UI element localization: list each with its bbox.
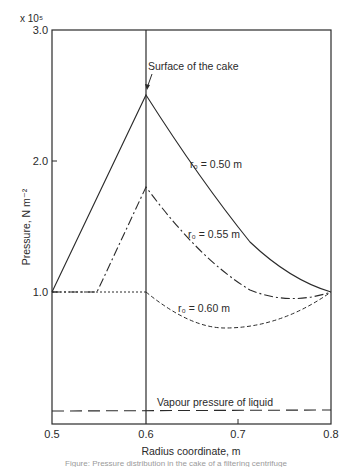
annotation-vapour: Vapour pressure of liquid: [157, 396, 273, 408]
annotation-r055: r₀ = 0.55 m: [188, 228, 240, 240]
plot-frame: [52, 30, 331, 424]
y-axis-ticks: [52, 161, 57, 292]
figure-caption: Figure: Pressure distribution in the cak…: [65, 459, 287, 467]
series-r060: [146, 292, 331, 328]
series-r050: [52, 95, 331, 292]
y-tick-3: 3.0: [33, 24, 48, 36]
y-axis-title: Pressure, N m⁻²: [20, 188, 32, 265]
y-multiplier: x 10⁵: [20, 13, 43, 24]
annotation-r050: r₀ = 0.50 m: [190, 158, 242, 170]
y-tick-2: 2.0: [33, 155, 48, 167]
y-tick-1: 1.0: [33, 286, 48, 298]
annotation-r060: r₀ = 0.60 m: [178, 302, 230, 314]
annotation-surface: Surface of the cake: [148, 60, 239, 72]
x-tick-2: 0.7: [230, 428, 245, 440]
x-tick-3: 0.8: [323, 428, 338, 440]
x-axis-title: Radius coordinate, m: [141, 445, 240, 457]
chart: 3.0 2.0 1.0 x 10⁵ 0.5 0.6 0.7 0.8 Radius…: [0, 0, 353, 467]
x-tick-1: 0.6: [138, 428, 153, 440]
vapour-pressure-line: [52, 410, 331, 411]
x-tick-0: 0.5: [44, 428, 59, 440]
